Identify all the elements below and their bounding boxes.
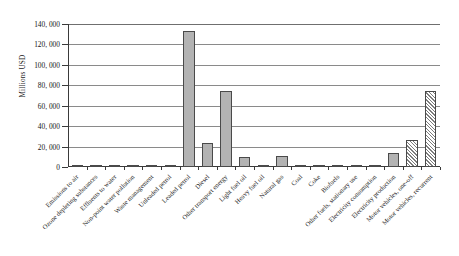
x-tick-label: Biofuels <box>194 173 340 256</box>
bar <box>109 165 121 167</box>
bar <box>332 165 344 167</box>
x-tick-mark <box>310 167 311 170</box>
x-tick-mark <box>384 167 385 170</box>
bar <box>406 140 418 167</box>
x-tick-mark <box>291 167 292 170</box>
x-tick-mark <box>142 167 143 170</box>
bar <box>425 91 437 167</box>
bar <box>183 31 195 167</box>
bar <box>295 165 307 167</box>
x-tick-label: Other transport energy <box>82 173 228 256</box>
y-tick-label: 0 <box>0 163 60 172</box>
x-tick-label: Diesel <box>64 173 210 256</box>
bar-chart: Millions USD 140, 000120, 000100, 00080,… <box>0 0 459 256</box>
x-tick-mark <box>440 167 441 170</box>
x-tick-mark <box>235 167 236 170</box>
bar <box>351 165 363 167</box>
x-tick-label: Effluents to water <box>0 173 117 256</box>
x-tick-label: Emissions to air <box>0 173 80 256</box>
y-tick-label: 80, 000 <box>0 81 60 90</box>
x-tick-mark <box>366 167 367 170</box>
bar <box>276 156 288 167</box>
x-tick-label: Heavy fuel oil <box>119 173 265 256</box>
x-tick-label: Non-point water pollution <box>0 173 136 256</box>
y-tick-label: 120, 000 <box>0 40 60 49</box>
x-tick-label: Motor vehicles, one-off <box>268 173 414 256</box>
y-tick-label: 20, 000 <box>0 142 60 151</box>
x-tick-label: Light fuel oil <box>101 173 247 256</box>
y-tick-label: 40, 000 <box>0 122 60 131</box>
bar <box>388 153 400 167</box>
x-tick-label: Motor vehicles, recurrent <box>287 173 433 256</box>
bar <box>258 165 270 167</box>
x-tick-label: Leaded petrol <box>45 173 191 256</box>
x-tick-mark <box>328 167 329 170</box>
x-tick-label: Unleaded petrol <box>26 173 172 256</box>
x-tick-label: Coal <box>157 173 303 256</box>
x-tick-label: Electricity consumption <box>231 173 377 256</box>
x-tick-mark <box>347 167 348 170</box>
bar <box>239 157 251 167</box>
x-tick-mark <box>403 167 404 170</box>
x-tick-mark <box>273 167 274 170</box>
y-tick-mark <box>62 167 68 168</box>
x-tick-label: Electricity production <box>250 173 396 256</box>
bar <box>90 165 102 167</box>
bar <box>146 165 158 167</box>
x-tick-label: Ozone depleting substances <box>0 173 98 256</box>
x-tick-mark <box>105 167 106 170</box>
x-tick-label: Coke <box>175 173 321 256</box>
bar <box>313 165 325 167</box>
x-tick-label: Waste management <box>8 173 154 256</box>
x-tick-mark <box>87 167 88 170</box>
x-tick-label: Other fuels, stationary use <box>212 173 358 256</box>
y-tick-label: 100, 000 <box>0 60 60 69</box>
x-tick-mark <box>217 167 218 170</box>
x-tick-mark <box>254 167 255 170</box>
x-tick-mark <box>180 167 181 170</box>
x-tick-mark <box>124 167 125 170</box>
x-tick-mark <box>198 167 199 170</box>
x-tick-mark <box>161 167 162 170</box>
y-tick-label: 60, 000 <box>0 101 60 110</box>
bar-series <box>68 24 440 167</box>
bar <box>202 143 214 168</box>
bar <box>72 165 84 167</box>
x-tick-mark <box>421 167 422 170</box>
bar <box>369 165 381 167</box>
bar <box>127 165 139 167</box>
bar <box>220 91 232 167</box>
x-tick-label: Natural gas <box>138 173 284 256</box>
bar <box>165 165 177 167</box>
y-tick-label: 140, 000 <box>0 20 60 29</box>
